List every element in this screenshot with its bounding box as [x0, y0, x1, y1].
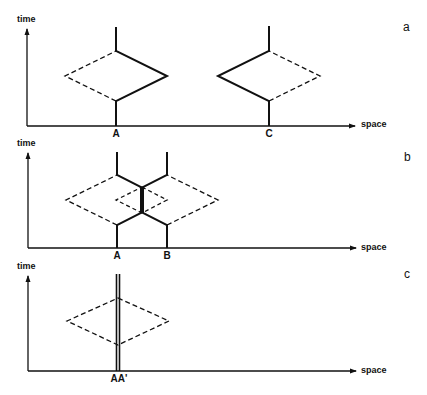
spacetime-diagram — [0, 0, 427, 395]
panel-label-a: a — [403, 21, 410, 33]
point-label-b: B — [163, 251, 170, 261]
point-label-aa-prime: AA' — [111, 374, 128, 384]
point-label-c: C — [265, 129, 272, 139]
dashed-path-b — [167, 175, 218, 225]
panel-label-c: c — [404, 268, 410, 280]
x-axis-label: space — [361, 243, 387, 252]
dashed-path-a — [66, 175, 117, 225]
worldline-b — [143, 152, 167, 248]
point-label-a: A — [112, 129, 119, 139]
panel-a — [27, 26, 355, 126]
dashed-path-c — [269, 51, 320, 101]
x-axis-label: space — [361, 120, 387, 129]
worldline-a — [116, 27, 167, 126]
dashed-diamond — [67, 298, 169, 345]
panel-b — [28, 152, 356, 248]
point-label-a: A — [113, 251, 120, 261]
y-axis-label: time — [17, 139, 36, 148]
worldline-a — [117, 152, 141, 248]
worldline-c — [218, 26, 269, 126]
x-axis-label: space — [361, 366, 387, 375]
dashed-path-a — [65, 51, 116, 101]
y-axis-label: time — [17, 15, 36, 24]
y-axis-label: time — [17, 262, 36, 271]
panel-c — [28, 274, 356, 371]
panel-label-b: b — [404, 151, 411, 163]
